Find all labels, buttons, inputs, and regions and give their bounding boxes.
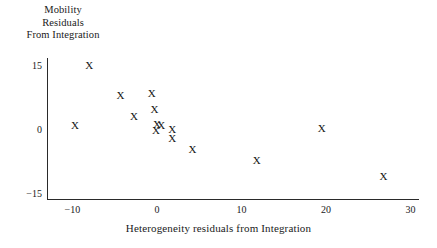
data-point-marker: X: [146, 88, 158, 99]
x-tick-label: 30: [391, 205, 431, 215]
y-tick-label: 0: [2, 125, 42, 135]
x-axis-title: Heterogeneity residuals from Integration: [0, 222, 437, 235]
data-point-marker: X: [150, 125, 162, 136]
data-point-marker: X: [128, 111, 140, 122]
scatter-plot-figure: Mobility Residuals From Integration 150−…: [0, 0, 437, 248]
x-tick-label: −10: [52, 205, 92, 215]
data-point-marker: X: [166, 133, 178, 144]
x-tick-label: 0: [137, 205, 177, 215]
x-tick-label: 10: [221, 205, 261, 215]
data-point-marker: X: [115, 90, 127, 101]
data-point-marker: X: [186, 144, 198, 155]
y-tick-label: 15: [2, 61, 42, 71]
x-tick-label: 20: [306, 205, 346, 215]
data-point-marker: X: [251, 155, 263, 166]
data-point-marker: X: [69, 120, 81, 131]
data-point-marker: X: [316, 123, 328, 134]
data-point-marker: X: [377, 171, 389, 182]
data-point-marker: X: [148, 104, 160, 115]
y-axis-tick-labels: 150−15: [0, 0, 42, 248]
data-point-marker: X: [83, 60, 95, 71]
plot-data-area: [47, 57, 419, 200]
y-tick-label: −15: [2, 189, 42, 199]
